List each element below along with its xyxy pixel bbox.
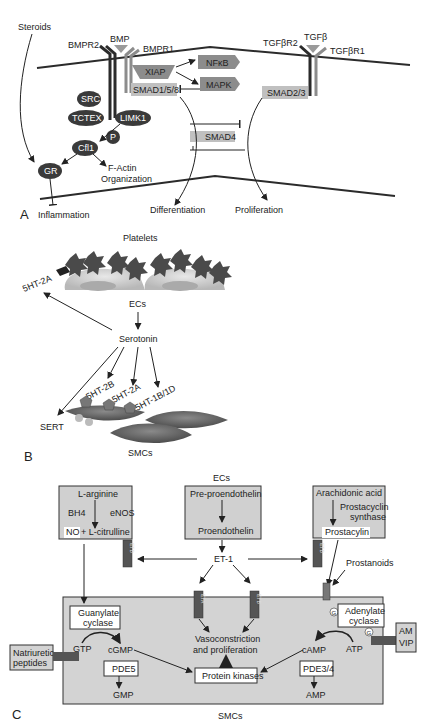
ecs-label-c: ECs [213, 473, 231, 483]
cgmp-label: cGMP [108, 645, 133, 655]
camp-label: cAMP [302, 645, 326, 655]
bmp-ligand-icon [114, 45, 128, 53]
adenylate-label-2: cyclase [349, 616, 379, 626]
bmpr1-label: BMPR1 [143, 44, 174, 54]
bmpr2-label: BMPR2 [68, 40, 99, 50]
figure-canvas: Steroids BMPR2 BMP BMPR1 XIAP NFκB MAPK … [0, 0, 433, 725]
svg-text:ETB: ETB [256, 594, 262, 604]
prostacyclin-synthase-label-2: synthase [350, 512, 386, 522]
gr-label: GR [44, 166, 58, 176]
panel-c-label: C [12, 707, 21, 722]
panel-c: ECs L-arginine BH4 eNOS NO + L-citrullin… [10, 473, 416, 722]
differentiation-label: Differentiation [150, 205, 205, 215]
natriuretic-label-1: Natriuretic [13, 648, 55, 658]
tgfbr1-receptor-icon [316, 48, 326, 96]
ecs-label: ECs [129, 299, 147, 309]
tgfbr1-label: TGFβR1 [330, 46, 365, 56]
pde5-label: PDE5 [112, 664, 136, 674]
protein-kinases-label: Protein kinases [202, 671, 264, 681]
gmp-label: GMP [113, 690, 134, 700]
natriuretic-label-2: peptides [13, 658, 48, 668]
panel-b-label: B [24, 449, 33, 464]
smad158-label: SMAD1/5/8 [133, 85, 179, 95]
panel-b: Platelets 5HT-2A ECs Serotonin 5HT-2B 5H… [21, 233, 232, 464]
pde34-label: PDE3/4 [303, 664, 334, 674]
larginine-label: L-arginine [78, 489, 118, 499]
nfkb-label: NFκB [206, 58, 229, 68]
guanylate-label-1: Guanylate [78, 608, 119, 618]
platelets-label: Platelets [123, 233, 158, 243]
sert-label: SERT [40, 422, 64, 432]
proendothelin-label: Proendothelin [198, 526, 254, 536]
smad4-label: SMAD4 [205, 132, 236, 142]
arachidonic-label: Arachidonic acid [316, 488, 382, 498]
tgfbr2-label: TGFβR2 [263, 38, 298, 48]
bottom-membrane [40, 176, 395, 199]
vip-label: VIP [399, 638, 414, 648]
bmp-label: BMP [110, 34, 130, 44]
smcs-label-b: SMCs [128, 448, 153, 458]
serotonin-label: Serotonin [119, 334, 158, 344]
limk1-label: LIMK1 [120, 113, 146, 123]
prostacyclin-label: Prostacylin [325, 527, 369, 537]
prostacyclin-receptor-icon [323, 583, 330, 600]
svg-text:G: G [332, 610, 337, 616]
am-vip-receptor-icon [371, 636, 396, 645]
gtp-label: GTP [73, 644, 92, 654]
cfl1-label: Cfl1 [78, 143, 94, 153]
svg-text:ETB: ETB [129, 543, 135, 553]
prostanoids-label: Prostanoids [346, 558, 394, 568]
amp-label: AMP [306, 690, 326, 700]
src-label: SRC [81, 94, 101, 104]
vasoconstriction-label-1: Vasoconstriction [195, 634, 260, 644]
p-label: P [110, 132, 116, 142]
panel-a-label: A [20, 207, 29, 222]
tctex-label: TCTEX [72, 113, 102, 123]
tgfb-label: TGFβ [304, 32, 327, 42]
no-label: NO [66, 527, 80, 537]
factin-label-1: F-Actin [108, 163, 137, 173]
smad23-label: SMAD2/3 [267, 88, 306, 98]
steroids-label: Steroids [18, 22, 52, 32]
atp-label: ATP [346, 644, 363, 654]
bh4-label: BH4 [68, 508, 86, 518]
guanylate-label-2: cyclase [83, 618, 113, 628]
5ht2a-top-label: 5HT-2A [21, 273, 53, 294]
5ht2a-receptor-icon [56, 266, 70, 276]
prostacyclin-synthase-label-1: Prostacyclin [340, 502, 389, 512]
xiap-label: XIAP [145, 67, 166, 77]
mapk-label: MAPK [206, 80, 232, 90]
smcs-label-c: SMCs [218, 711, 243, 721]
steroids-arrow [20, 34, 34, 162]
vasoconstriction-label-2: and proliferation [193, 645, 258, 655]
panel-a: Steroids BMPR2 BMP BMPR1 XIAP NFκB MAPK … [18, 22, 410, 222]
svg-text:G: G [367, 630, 372, 636]
adenylate-label-1: Adenylate [345, 606, 385, 616]
lcitrulline-label: + L-citrulline [81, 527, 130, 537]
am-label: AM [399, 626, 413, 636]
et1-label: ET-1 [214, 554, 233, 564]
inflammation-label: Inflammation [38, 210, 90, 220]
sert-transporter-icon [75, 414, 83, 422]
factin-label-2: Organization [101, 174, 152, 184]
svg-text:ETA: ETA [200, 594, 206, 604]
enos-label: eNOS [110, 508, 135, 518]
bmpr2-receptor-icon [100, 46, 110, 120]
svg-text:ETB: ETB [319, 543, 325, 553]
proliferation-label: Proliferation [235, 205, 283, 215]
preproendothelin-label: Pre-proendothelin [190, 489, 262, 499]
